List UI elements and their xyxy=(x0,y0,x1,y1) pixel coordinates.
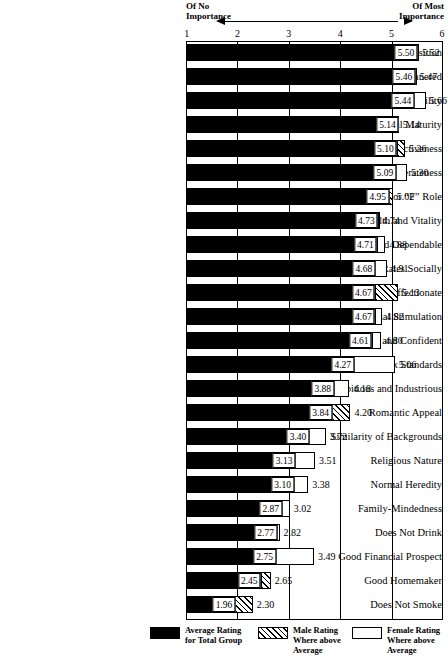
total-value-label: 4.67 xyxy=(352,309,375,324)
x-tick-label: 3 xyxy=(286,28,291,39)
bar-segment-female xyxy=(295,452,315,469)
end-value-label: 5.66 xyxy=(428,92,448,109)
bar-group: 3.13 xyxy=(186,452,443,469)
end-value-label: 2.30 xyxy=(255,596,275,613)
end-value-label: 5.47 xyxy=(418,68,438,85)
end-value-label: 5.26 xyxy=(407,140,427,157)
bar-row: Health and Vitality4.734.74 xyxy=(0,212,448,229)
bar-segment-total xyxy=(186,116,399,133)
end-value-label: 5.02 xyxy=(395,188,415,205)
bar-segment-female xyxy=(354,356,395,373)
total-value-label: 1.96 xyxy=(213,597,236,612)
bar-group: 5.44 xyxy=(186,92,443,109)
bar-segment-total xyxy=(186,164,396,181)
total-value-label: 3.10 xyxy=(271,477,294,492)
total-value-label: 4.95 xyxy=(366,189,389,204)
bar-row: Sociability5.445.66 xyxy=(0,92,448,109)
bar-group: 5.09 xyxy=(186,164,443,181)
end-value-label: 4.91 xyxy=(389,260,409,277)
total-value-label: 3.13 xyxy=(273,453,296,468)
end-value-label: 2.65 xyxy=(273,572,293,589)
total-value-label: 5.10 xyxy=(374,141,397,156)
bar-segment-female xyxy=(276,548,314,565)
bar-segment-total xyxy=(186,212,378,229)
bar-row: Pleasant Disposition5.505.52 xyxy=(0,44,448,61)
bar-group: 1.96 xyxy=(186,596,443,613)
total-value-label: 5.44 xyxy=(392,93,415,108)
bar-row: Traditional “M” or “F” Role4.955.02 xyxy=(0,188,448,205)
bar-group: 5.10 xyxy=(186,140,443,157)
bar-row: Good Financial Prospect2.753.49 xyxy=(0,548,448,565)
total-value-label: 5.46 xyxy=(393,69,416,84)
bar-row: Ambitious and Industrious3.884.18 xyxy=(0,380,448,397)
total-value-label: 4.68 xyxy=(353,261,376,276)
bar-segment-total xyxy=(186,68,415,85)
total-value-label: 5.14 xyxy=(376,117,399,132)
bar-segment-total xyxy=(186,140,397,157)
end-value-label: 3.38 xyxy=(310,476,330,493)
importance-arrow xyxy=(186,16,443,28)
total-value-label: 5.50 xyxy=(395,45,418,60)
bar-row: Does Not Smoke1.962.30 xyxy=(0,596,448,613)
bar-row: Emotional Maturity5.145.14 xyxy=(0,116,448,133)
bar-segment-female xyxy=(294,476,308,493)
bar-row: Affectionate4.675.13 xyxy=(0,284,448,301)
bar-group: 4.67 xyxy=(186,308,443,325)
total-value-label: 4.73 xyxy=(355,213,378,228)
total-value-label: 5.09 xyxy=(374,165,397,180)
end-value-label: 5.13 xyxy=(400,284,420,301)
bar-row: Similarity of Backgrounds3.403.72 xyxy=(0,428,448,445)
bar-segment-female xyxy=(282,500,290,517)
end-value-label: 4.18 xyxy=(351,380,371,397)
x-tick-label: 2 xyxy=(235,28,240,39)
bar-segment-female xyxy=(277,524,280,541)
bar-group: 3.40 xyxy=(186,428,443,445)
bar-row: Good Homemaker2.452.65 xyxy=(0,572,448,589)
bar-segment-female xyxy=(334,380,349,397)
end-value-label: 3.51 xyxy=(317,452,337,469)
bar-group: 2.77 xyxy=(186,524,443,541)
total-value-label: 2.75 xyxy=(253,549,276,564)
chart-container: Of NoImportance Of MostImportance 123456… xyxy=(0,0,448,664)
legend-label: Average Ratingfor Total Group xyxy=(185,625,242,645)
white-swatch xyxy=(352,627,382,639)
bar-segment-male xyxy=(235,596,252,613)
end-value-label: 5.14 xyxy=(401,116,421,133)
total-value-label: 4.27 xyxy=(331,357,354,372)
bar-row: Normal Heredity3.103.38 xyxy=(0,476,448,493)
bar-segment-female xyxy=(375,260,387,277)
bar-segment-female xyxy=(377,236,386,253)
bar-segment-total xyxy=(186,308,375,325)
x-axis-tick-labels: 123456 xyxy=(0,28,448,40)
total-value-label: 2.87 xyxy=(259,501,282,516)
bar-group: 2.75 xyxy=(186,548,443,565)
bar-segment-total xyxy=(186,284,375,301)
end-value-label: 4.74 xyxy=(380,212,400,229)
arrow-line xyxy=(224,21,398,22)
legend-label: Female RatingWhere aboveAverage xyxy=(387,625,440,655)
total-value-label: 4.61 xyxy=(349,333,372,348)
bar-row: Poised and Confident4.614.80 xyxy=(0,332,448,349)
bar-segment-female xyxy=(396,164,407,181)
bar-row: Does Not Drink2.772.82 xyxy=(0,524,448,541)
x-tick-label: 1 xyxy=(184,28,189,39)
bar-segment-total xyxy=(186,356,354,373)
end-value-label: 3.02 xyxy=(292,500,312,517)
bar-segment-male xyxy=(375,284,399,301)
bar-group: 3.84 xyxy=(186,404,443,421)
bar-segment-female xyxy=(375,308,383,325)
bar-segment-total xyxy=(186,260,375,277)
x-tick-label: 6 xyxy=(440,28,445,39)
x-tick-label: 5 xyxy=(389,28,394,39)
end-value-label: 5.06 xyxy=(397,356,417,373)
total-value-label: 4.67 xyxy=(352,285,375,300)
bar-row: Stable and Dependable4.714.88 xyxy=(0,236,448,253)
bar-segment-female xyxy=(414,92,425,109)
arrow-right-icon xyxy=(404,17,413,25)
bar-segment-female xyxy=(309,428,325,445)
bar-segment-total xyxy=(186,236,377,253)
bar-segment-female xyxy=(372,332,382,349)
bar-row: Conventional Sex Standards4.275.06 xyxy=(0,356,448,373)
x-tick-label: 4 xyxy=(338,28,343,39)
bar-segment-total xyxy=(186,188,389,205)
